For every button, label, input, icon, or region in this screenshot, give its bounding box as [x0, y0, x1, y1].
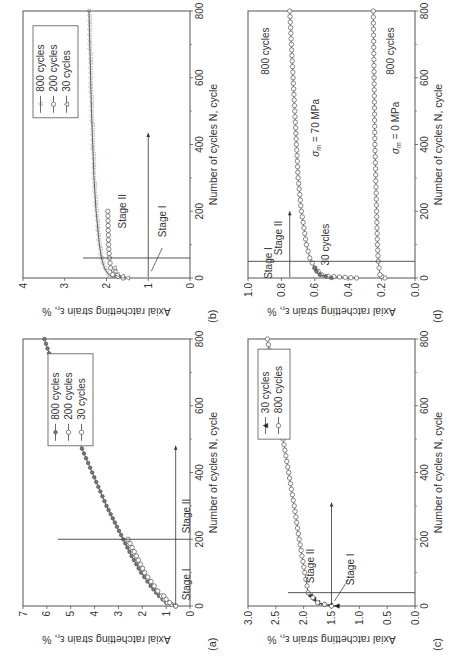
x-axis-label: Number of cycles N, cycle [207, 412, 219, 534]
x-tick-label: 400 [419, 464, 430, 481]
y-tick-label: 0.0 [410, 611, 421, 625]
y-tick-label: 4 [89, 611, 100, 617]
chart-c: 02004006008000.00.51.01.52.02.53.0Number… [225, 328, 450, 656]
y-tick-label: 1 [161, 611, 172, 617]
y-tick-label: 0.6 [309, 283, 320, 297]
y-tick-label: 0 [185, 283, 196, 289]
legend-label: 200 cycles [48, 45, 59, 92]
rotated-chart-group: 020040060080001234567Number of cycles N,… [18, 330, 220, 651]
x-axis-label: Number of cycles N, cycle [432, 84, 444, 206]
y-tick-label: 7 [18, 611, 29, 617]
panel-label: (c) [431, 638, 443, 651]
series-line [128, 539, 176, 606]
annotation-sigma-70: σm = 70 MPa [310, 99, 322, 157]
x-tick-label: 800 [194, 2, 205, 19]
y-tick-label: 6 [41, 611, 52, 617]
x-tick-label: 400 [194, 464, 205, 481]
x-tick-label: 600 [194, 69, 205, 86]
y-tick-label: 2 [137, 611, 148, 617]
stage1-label: Stage I [345, 553, 356, 585]
y-tick-label: 0.5 [382, 611, 393, 625]
legend-label: 800 cycles [50, 373, 61, 420]
y-tick-label: 0.8 [276, 283, 287, 297]
y-axis-label: Axial ratchetting strain εr, % [267, 633, 395, 646]
y-tick-label: 0.4 [343, 283, 354, 297]
y-tick-label: 3 [113, 611, 124, 617]
y-axis-label: Axial ratchetting strain εr, % [42, 305, 170, 318]
panel-b: 020040060080001234Number of cycles N, cy… [0, 0, 225, 328]
legend-label: 800 cycles [35, 45, 46, 92]
x-axis-label: Number of cycles N, cycle [432, 412, 444, 534]
x-tick-label: 600 [419, 69, 430, 86]
stage2-label: Stage II [273, 221, 284, 255]
x-tick-label: 0 [194, 275, 205, 281]
x-tick-label: 800 [194, 330, 205, 347]
y-tick-label: 2.0 [298, 611, 309, 625]
y-tick-label: 1.0 [243, 283, 254, 297]
stage2-label: Stage II [305, 549, 316, 583]
panel-label: (a) [206, 638, 218, 651]
y-tick-label: 1.5 [326, 611, 337, 625]
x-tick-label: 600 [419, 397, 430, 414]
legend-label: 800 cycles [273, 366, 284, 413]
x-tick-label: 0 [419, 603, 430, 609]
legend-label: 30 cycles [260, 371, 271, 413]
legend-label: 200 cycles [63, 373, 74, 420]
y-tick-label: 0.0 [410, 283, 421, 297]
annotation-30-cycles: 30 cycles [320, 224, 331, 266]
y-tick-label: 0 [185, 611, 196, 617]
stage1-label: Stage I [157, 205, 168, 237]
svg-text:☆: ☆ [37, 101, 44, 107]
y-tick-label: 1 [143, 283, 154, 289]
x-tick-label: 0 [419, 275, 430, 281]
legend-label: 30 cycles [61, 50, 72, 92]
y-axis-label: Axial ratchetting strain εr, % [267, 305, 395, 318]
stage2-label: Stage II [117, 194, 128, 228]
annotation-sigma-0: σm = 0 MPa [390, 101, 402, 154]
y-tick-label: 4 [18, 283, 29, 289]
rotated-chart-group: 02004006008000.00.51.01.52.02.53.0Number… [243, 330, 445, 651]
x-tick-label: 200 [194, 530, 205, 547]
chart-a: 020040060080001234567Number of cycles N,… [0, 328, 225, 656]
legend-label: 30 cycles [76, 378, 87, 420]
rotated-chart-group: 02004006008000.00.20.40.60.81.0Number of… [243, 2, 445, 323]
panel-a: 020040060080001234567Number of cycles N,… [0, 328, 225, 656]
x-tick-label: 200 [419, 530, 430, 547]
x-tick-label: 600 [194, 397, 205, 414]
x-tick-label: 200 [419, 202, 430, 219]
y-tick-label: 3.0 [243, 611, 254, 625]
panel-label: (d) [431, 310, 443, 323]
y-tick-label: 0.2 [376, 283, 387, 297]
chart-d: 02004006008000.00.20.40.60.81.0Number of… [225, 0, 450, 328]
annotation-800-cycles-70: 800 cycles [260, 27, 271, 74]
annotation-800-cycles-0: 800 cycles [385, 27, 396, 74]
stage1-label: Stage I [263, 247, 274, 279]
y-tick-label: 2 [101, 283, 112, 289]
x-tick-label: 400 [419, 136, 430, 153]
panel-c: 02004006008000.00.51.01.52.02.53.0Number… [225, 328, 450, 656]
x-tick-label: 800 [419, 2, 430, 19]
y-axis-label: Axial ratchetting strain εr, % [42, 633, 170, 646]
chart-b: 020040060080001234Number of cycles N, cy… [0, 0, 225, 328]
panel-d: 02004006008000.00.20.40.60.81.0Number of… [225, 0, 450, 328]
x-tick-label: 200 [194, 202, 205, 219]
x-tick-label: 800 [419, 330, 430, 347]
panel-label: (b) [206, 310, 218, 323]
x-tick-label: 0 [194, 603, 205, 609]
y-tick-label: 3 [59, 283, 70, 289]
stage1-label: Stage I [181, 568, 192, 600]
stage2-label: Stage II [181, 499, 192, 533]
x-tick-label: 400 [194, 136, 205, 153]
x-axis-label: Number of cycles N, cycle [207, 84, 219, 206]
y-tick-label: 2.5 [270, 611, 281, 625]
y-tick-label: 5 [65, 611, 76, 617]
svg-text:☆: ☆ [85, 8, 92, 14]
rotated-chart-group: 020040060080001234Number of cycles N, cy… [18, 2, 220, 323]
y-tick-label: 1.0 [354, 611, 365, 625]
